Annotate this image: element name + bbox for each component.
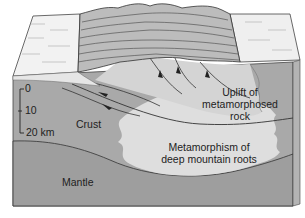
uplift-label-line-3: rock xyxy=(198,110,282,122)
metamorphism-label-line-2: deep mountain roots xyxy=(154,153,264,165)
metamorphism-label: Metamorphism of deep mountain roots xyxy=(154,141,264,165)
crust-label: Crust xyxy=(76,118,101,130)
plain-surface xyxy=(13,14,80,76)
scale-tick-10: 10 xyxy=(25,105,37,116)
scale-tick-20km: 20 km xyxy=(26,127,55,138)
uplift-label: Uplift of metamorphosed rock xyxy=(198,86,282,122)
uplift-label-line-1: Uplift of xyxy=(198,86,282,98)
uplift-label-line-2: metamorphosed xyxy=(198,98,282,110)
right-plain-surface xyxy=(230,14,300,62)
scale-tick-0: 0 xyxy=(25,83,31,94)
side-face xyxy=(293,60,300,206)
metamorphism-label-line-1: Metamorphism of xyxy=(154,141,264,153)
mantle-label: Mantle xyxy=(62,176,94,188)
